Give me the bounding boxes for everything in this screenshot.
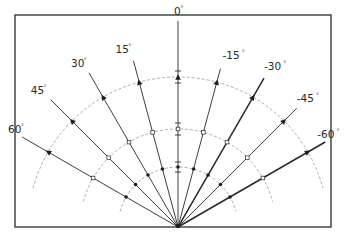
- square-marker-icon: [91, 176, 95, 180]
- degree-symbol: °: [180, 4, 183, 11]
- dot-marker-icon: [146, 173, 150, 177]
- ray-60: [22, 137, 178, 227]
- degree-symbol: °: [84, 56, 87, 63]
- dot-marker-icon: [206, 173, 210, 177]
- angle-label: 30: [71, 57, 84, 69]
- degree-symbol: °: [283, 59, 286, 66]
- square-marker-icon: [261, 176, 265, 180]
- square-marker-icon: [176, 127, 180, 131]
- angle-label: -15: [222, 49, 239, 61]
- degree-symbol: °: [336, 127, 339, 134]
- square-marker-icon: [225, 140, 229, 144]
- dot-marker-icon: [176, 165, 180, 169]
- ray-neg30: [178, 78, 264, 227]
- square-marker-icon: [127, 140, 131, 144]
- dot-marker-icon: [161, 167, 165, 171]
- square-marker-icon: [151, 131, 155, 135]
- triangle-marker-icon: [175, 74, 181, 80]
- triangle-marker-icon: [213, 79, 218, 85]
- degree-symbol: °: [128, 42, 131, 49]
- ray-neg15: [178, 69, 220, 227]
- square-marker-icon: [202, 131, 206, 135]
- dot-marker-icon: [219, 183, 223, 187]
- square-marker-icon: [107, 156, 111, 160]
- dot-marker-icon: [192, 167, 196, 171]
- angle-label: 45: [31, 84, 44, 96]
- ray-15: [133, 61, 178, 227]
- triangle-marker-icon: [137, 79, 142, 85]
- square-marker-icon: [245, 156, 249, 160]
- dot-marker-icon: [228, 195, 232, 199]
- dot-marker-icon: [134, 183, 138, 187]
- degree-symbol: °: [242, 48, 245, 55]
- angle-labels: 0°15°30°45°60°-15°-30°-45°-60°: [8, 4, 339, 140]
- degree-symbol: °: [316, 91, 319, 98]
- polar-ray-diagram: 0°15°30°45°60°-15°-30°-45°-60°: [0, 0, 346, 238]
- angle-label: -60: [317, 128, 334, 140]
- origin-point: [176, 224, 180, 228]
- degree-symbol: °: [44, 83, 47, 90]
- angle-label: 60: [8, 123, 21, 135]
- angle-label: -30: [264, 60, 281, 72]
- ray-neg45: [178, 108, 297, 227]
- angle-label: -45: [297, 92, 314, 104]
- ray-neg60: [178, 142, 325, 227]
- dot-marker-icon: [124, 195, 128, 199]
- degree-symbol: °: [21, 122, 24, 129]
- ray-45: [51, 100, 178, 227]
- angle-rays: [22, 21, 325, 227]
- angle-label: 15: [115, 43, 128, 55]
